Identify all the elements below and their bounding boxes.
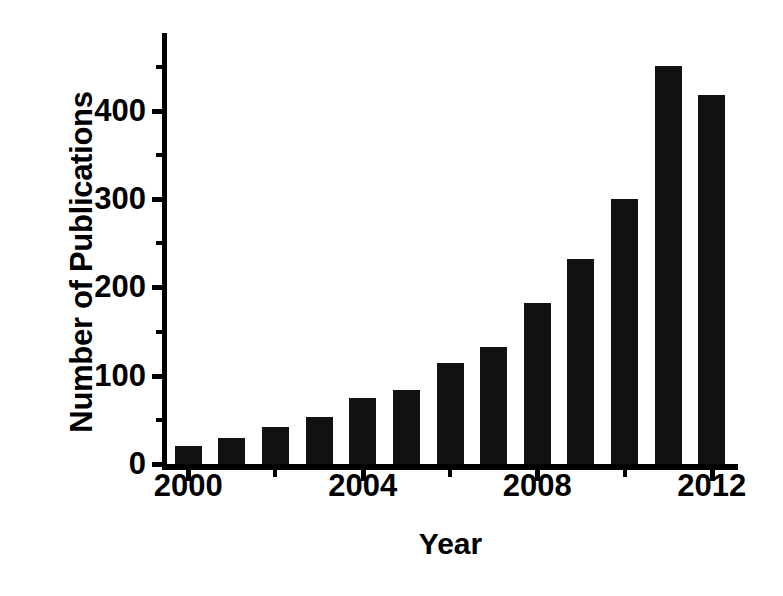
- bar-2009: [567, 259, 594, 464]
- y-axis-spine: [162, 33, 167, 465]
- bar-2003: [306, 417, 333, 464]
- x-minor-tick-2006: [448, 470, 452, 477]
- bar-2008: [524, 303, 551, 464]
- x-tick-label-2008: 2008: [492, 470, 582, 501]
- bar-2001: [218, 438, 245, 464]
- y-tick-0: [152, 462, 162, 467]
- y-minor-tick-150: [156, 330, 162, 334]
- x-minor-tick-2002: [273, 470, 277, 477]
- publications-bar-chart: Number of Publications 0100200300400 200…: [0, 0, 783, 596]
- x-tick-label-2004: 2004: [318, 470, 408, 501]
- bar-2012: [698, 95, 725, 464]
- bar-2005: [393, 390, 420, 464]
- y-minor-tick-50: [156, 418, 162, 422]
- y-tick-300: [152, 197, 162, 202]
- x-tick-label-2000: 2000: [143, 470, 233, 501]
- y-tick-400: [152, 109, 162, 114]
- bar-2011: [655, 66, 682, 464]
- y-minor-tick-250: [156, 241, 162, 245]
- bar-2002: [262, 427, 289, 464]
- y-tick-label-200: 200: [94, 271, 146, 302]
- y-minor-tick-350: [156, 153, 162, 157]
- bar-2010: [611, 199, 638, 464]
- bar-2000: [175, 446, 202, 464]
- bar-2006: [437, 363, 464, 464]
- bar-2004: [349, 398, 376, 464]
- y-tick-label-300: 300: [94, 183, 146, 214]
- plot-area: [162, 33, 738, 465]
- y-minor-tick-450: [156, 65, 162, 69]
- y-tick-label-400: 400: [94, 95, 146, 126]
- x-axis-title: Year: [163, 527, 738, 561]
- bar-2007: [480, 347, 507, 464]
- y-tick-200: [152, 285, 162, 290]
- y-tick-label-100: 100: [94, 360, 146, 391]
- y-tick-100: [152, 374, 162, 379]
- x-minor-tick-2010: [623, 470, 627, 477]
- x-tick-label-2012: 2012: [667, 470, 757, 501]
